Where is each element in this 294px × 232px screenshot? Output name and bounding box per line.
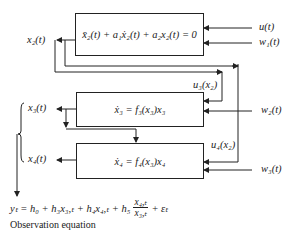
input-w3-label: w₃(t) — [261, 163, 282, 174]
output-x2-label: x₂(t) — [27, 34, 45, 45]
block-x4-dynamics: ẋ₄ = f₄(x₃)x₄ — [76, 143, 204, 179]
input-w2-label: w₂(t) — [261, 104, 282, 115]
input-u3-label: u₃(x₂) — [193, 79, 217, 90]
observation-equation: yₜ = h₀ + h₃x₃,ₜ + h₄x₄,ₜ + h₅ x₄,ₜ x₃,ₜ… — [10, 197, 168, 218]
observation-caption: Observation equation — [10, 219, 96, 230]
block-x3-dynamics: ẋ₃ = f₃(x₃)x₃ — [76, 92, 204, 127]
observation-lhs: yₜ = h₀ + h₃x₃,ₜ + h₄x₄,ₜ + h₅ — [10, 202, 130, 214]
output-x3-label: x₃(t) — [28, 102, 46, 113]
output-x4-label: x₄(t) — [28, 153, 46, 164]
fraction-numerator: x₄,ₜ — [133, 197, 148, 208]
block-x2-equation: x̄₂(t) + a₁ẋ₂(t) + a₂x₂(t) = 0 — [82, 29, 197, 40]
block-x4-equation: ẋ₄ = f₄(x₃)x₄ — [115, 156, 166, 167]
input-u-label: u(t) — [259, 21, 274, 32]
input-u4-label: u₄(x₂) — [211, 139, 235, 150]
observation-fraction: x₄,ₜ x₃,ₜ — [133, 197, 148, 218]
input-w1-label: w₁(t) — [259, 36, 280, 47]
observation-tail: + εₜ — [151, 202, 168, 214]
block-x2-dynamics: x̄₂(t) + a₁ẋ₂(t) + a₂x₂(t) = 0 — [75, 13, 204, 56]
block-x3-equation: ẋ₃ = f₃(x₃)x₃ — [115, 104, 166, 115]
fraction-denominator: x₃,ₜ — [134, 208, 147, 218]
